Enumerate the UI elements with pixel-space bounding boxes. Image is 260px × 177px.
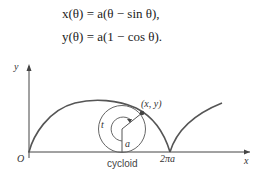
x-axis-arrow-icon	[244, 150, 250, 155]
y-axis-arrow-icon	[27, 64, 32, 71]
cycloid-diagram	[0, 0, 260, 177]
point-marker	[140, 111, 145, 116]
cycloid-arch-2	[170, 103, 222, 152]
period-label: 2πa	[160, 153, 175, 164]
point-label: (x, y)	[141, 98, 162, 109]
radius-label: a	[125, 138, 130, 149]
radius-to-point	[122, 113, 142, 129]
y-axis-label: y	[14, 61, 18, 72]
angle-label: t	[101, 119, 104, 130]
figure-caption: cycloid	[107, 158, 138, 169]
origin-label: O	[17, 153, 24, 164]
x-axis-label: x	[244, 155, 248, 166]
